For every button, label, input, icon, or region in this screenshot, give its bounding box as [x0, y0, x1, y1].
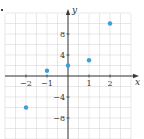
data-point [45, 69, 49, 73]
y-tick-label: −4 [53, 93, 65, 102]
data-point [24, 105, 28, 109]
axes [5, 9, 139, 139]
y-tick-label: 4 [60, 51, 65, 60]
y-tick-label: −8 [53, 114, 65, 123]
data-point [108, 21, 112, 25]
x-tick-label: −2 [20, 79, 32, 88]
data-point [66, 63, 70, 67]
x-tick-label: 1 [86, 79, 91, 88]
y-tick-label: 8 [60, 30, 65, 39]
data-point [87, 58, 91, 62]
y-axis-arrow-icon [66, 9, 70, 15]
x-tick-label: −1 [41, 79, 53, 88]
x-axis-label: x [135, 77, 140, 87]
scatter-plot: −2−11284−4−8 x y [0, 0, 144, 139]
y-axis-label: y [71, 5, 78, 15]
x-tick-label: 2 [107, 79, 112, 88]
